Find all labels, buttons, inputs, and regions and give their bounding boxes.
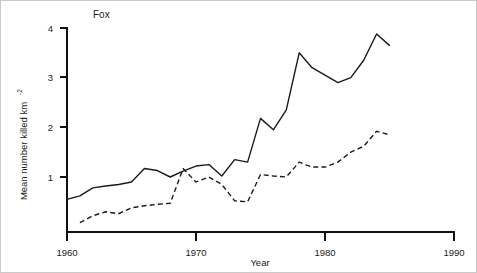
x-axis-title: Year [250, 257, 269, 268]
x-tick-label-1990: 1990 [443, 247, 464, 258]
figure-container: 4 3 2 1 1960 1970 1980 1990 Year Mean nu… [0, 0, 477, 273]
data-line-dashed [80, 131, 390, 222]
chart-canvas: 4 3 2 1 1960 1970 1980 1990 Year Mean nu… [1, 1, 477, 273]
plot-title: Fox [93, 9, 110, 20]
y-tick-label-1: 1 [48, 172, 53, 183]
y-tick-label-3: 3 [48, 72, 53, 83]
x-tick-label-1980: 1980 [314, 247, 335, 258]
x-tick-label-1960: 1960 [56, 247, 77, 258]
x-tick-label-1970: 1970 [185, 247, 206, 258]
data-line-solid [67, 34, 390, 199]
y-axis-title-superscript: -2 [16, 89, 23, 95]
y-axis-title-group: Mean number killed km -2 [16, 89, 29, 200]
y-tick-label-2: 2 [48, 122, 53, 133]
y-tick-label-4: 4 [48, 23, 53, 34]
y-axis-title: Mean number killed km [18, 102, 29, 200]
